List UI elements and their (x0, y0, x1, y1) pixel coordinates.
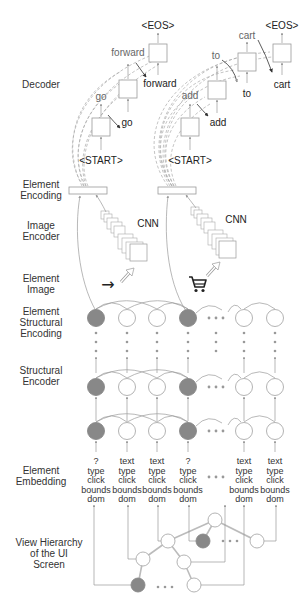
structural-arc (196, 375, 222, 382)
decoder-1-step-1-output: go (121, 117, 133, 128)
arrow-right-icon: → (101, 275, 114, 294)
vertical-ellipsis-dot (274, 332, 277, 335)
vertical-ellipsis-dot (215, 332, 218, 335)
node (267, 423, 284, 440)
cnn-stack-2: CNN (191, 207, 247, 258)
tree-ellipsis-dot (164, 586, 167, 589)
tree-ellipsis-dot (236, 540, 239, 543)
embedding-attr: type (148, 466, 165, 476)
vertical-ellipsis-dot (215, 350, 218, 353)
structural-arc (196, 306, 222, 313)
ellipsis-dot (208, 430, 211, 433)
node (236, 423, 253, 440)
structural-arc (96, 414, 157, 422)
structural-arc (196, 419, 222, 426)
view-hierarchy-tree (94, 505, 276, 592)
structural-arc (96, 303, 127, 309)
node (149, 310, 166, 327)
node (267, 379, 284, 396)
node (119, 310, 136, 327)
node (149, 379, 166, 396)
structural-arc (244, 416, 275, 422)
node-highlighted (88, 310, 105, 327)
label-structural-encoder-2: Encoder (22, 376, 60, 387)
element-encoding-1 (69, 187, 107, 194)
tree-node (177, 555, 191, 569)
label-elem-struct-enc-2: Structural (20, 317, 63, 328)
structural-arc (96, 372, 127, 378)
embedding-attr: text (150, 456, 165, 466)
structural-arc (244, 303, 275, 309)
embedding-attr: dom (266, 494, 284, 504)
embedding-attr: text (120, 456, 135, 466)
decoder-2: <START> add add to to cart cart <EOS> (154, 20, 298, 186)
tree-node-root (208, 513, 222, 527)
ellipsis-dot (215, 476, 218, 479)
vertical-ellipsis-dot (187, 350, 190, 353)
label-elem-struct-enc-3: Encoding (20, 328, 62, 339)
embedding-attr: dom (235, 494, 253, 504)
structural-arc (157, 303, 188, 309)
embedding-attr: bounds (81, 485, 111, 495)
decoder-2-step-3-output: cart (274, 79, 291, 90)
structural-encoder-grid (88, 301, 284, 452)
ellipsis-dot (208, 386, 211, 389)
structural-arc (157, 372, 188, 378)
node-highlighted (88, 423, 105, 440)
embedding-attr: bounds (112, 485, 142, 495)
structural-arc (127, 370, 188, 378)
node (149, 423, 166, 440)
decoder-1-cell-3 (149, 44, 167, 62)
vertical-ellipsis-dot (126, 350, 129, 353)
embedding-attr: dom (87, 494, 105, 504)
decoder-1-cell-1 (92, 118, 110, 136)
embedding-attr: click (118, 475, 136, 485)
structural-arc (96, 416, 127, 422)
embedding-attr: dom (118, 494, 136, 504)
label-element-encoding-2: Encoding (20, 190, 62, 201)
label-view-hierarchy-2: of the UI (30, 548, 68, 559)
label-elem-struct-enc-1: Element (23, 306, 60, 317)
vertical-ellipsis-dot (95, 332, 98, 335)
ellipsis-dot (215, 430, 218, 433)
ellipsis-dot (222, 386, 225, 389)
label-element-image-2: Image (27, 284, 55, 295)
decoder-1-start-token: <START> (79, 155, 123, 166)
label-decoder: Decoder (22, 79, 60, 90)
vertical-ellipsis-dot (126, 341, 129, 344)
vertical-ellipsis-dot (187, 332, 190, 335)
label-structural-encoder-1: Structural (20, 365, 63, 376)
decoder-1-step-2-output: forward (143, 78, 176, 89)
element-encoding-2 (158, 187, 196, 194)
node (236, 379, 253, 396)
embedding-attr: click (266, 475, 284, 485)
vertical-ellipsis-dot (95, 341, 98, 344)
label-view-hierarchy-3: Screen (33, 559, 65, 570)
ellipsis-dot (208, 317, 211, 320)
decoder-2-cell-3 (238, 53, 256, 71)
decoder-2-cell-1 (181, 118, 199, 136)
tree-ellipsis-dot (171, 586, 174, 589)
embedding-attr: bounds (173, 485, 203, 495)
embedding-attr: bounds (260, 485, 290, 495)
label-image-encoder-1: Image (27, 220, 55, 231)
vertical-ellipsis-dot (126, 332, 129, 335)
embedding-attr: bounds (142, 485, 172, 495)
label-element-encoding-1: Element (23, 179, 60, 190)
vertical-ellipsis-dot (274, 350, 277, 353)
structural-arc (157, 416, 188, 422)
embedding-attr: click (148, 475, 166, 485)
ellipsis-dot (208, 476, 211, 479)
embedding-attr: type (118, 466, 135, 476)
embedding-attr: type (87, 466, 104, 476)
tree-ellipsis-dot (222, 540, 225, 543)
ellipsis-dot (222, 476, 225, 479)
decoder-1-cell-2 (119, 80, 137, 98)
vertical-ellipsis-dot (187, 341, 190, 344)
decoder-2-step-3-input: cart (239, 30, 256, 41)
embedding-attr: type (266, 466, 283, 476)
decoder-2-start-token: <START> (168, 155, 212, 166)
label-element-embedding-2: Embedding (16, 476, 67, 487)
node-highlighted (180, 310, 197, 327)
vertical-ellipsis-dot (156, 332, 159, 335)
